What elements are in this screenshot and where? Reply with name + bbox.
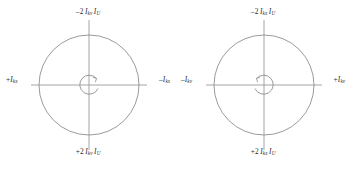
bottom-label-subscript-1: kx xyxy=(263,150,268,156)
top-axis-label: –2IkvIU xyxy=(76,8,100,16)
bottom-label-subscript-1: kv xyxy=(88,150,93,156)
top-label-subscript-2: U xyxy=(96,10,100,16)
top-label-subscript-1: kx xyxy=(263,10,268,16)
left-label-subscript: kx xyxy=(13,78,18,84)
right-diagram-canvas xyxy=(175,0,351,169)
bottom-axis-label: +2IkxIU xyxy=(251,148,276,156)
right-circle-diagram: –2IkxIU +2IkxIU –Ikv +Ikv xyxy=(175,0,351,169)
left-axis-label: –Ikv xyxy=(181,76,192,84)
bottom-label-subscript-2: U xyxy=(97,150,101,156)
top-label-subscript-1: kv xyxy=(88,10,93,16)
bottom-label-subscript-2: U xyxy=(272,150,276,156)
rotation-arrow-head-icon xyxy=(93,77,97,82)
right-axis-label: +Ikv xyxy=(334,76,345,84)
bottom-label-sign: +2 xyxy=(251,147,259,156)
bottom-axis-label: +2IkvIU xyxy=(76,148,101,156)
left-circle-diagram: –2IkvIU +2IkvIU +Ikx –Ikx xyxy=(0,0,176,169)
right-axis-label: –Ikx xyxy=(159,76,170,84)
left-axis-label: +Ikx xyxy=(6,76,17,84)
top-label-subscript-2: U xyxy=(271,10,275,16)
figure-root: –2IkvIU +2IkvIU +Ikx –Ikx –2IkxIU xyxy=(0,0,351,169)
top-axis-label: –2IkxIU xyxy=(251,8,275,16)
top-label-sign: –2 xyxy=(251,7,259,16)
top-label-sign: –2 xyxy=(76,7,84,16)
right-label-subscript: kv xyxy=(340,78,345,84)
bottom-label-sign: +2 xyxy=(76,147,84,156)
rotation-arrow-head-icon xyxy=(256,77,260,82)
right-label-subscript: kx xyxy=(165,78,170,84)
left-diagram-canvas xyxy=(0,0,176,169)
left-label-subscript: kv xyxy=(187,78,192,84)
